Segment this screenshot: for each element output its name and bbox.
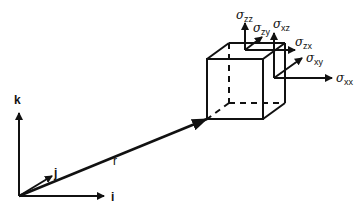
svg-text:zx: zx [303, 41, 313, 51]
sigma-xy-arrow [274, 58, 302, 78]
stress-diagram: k i j r σ z [0, 0, 364, 212]
i-label: i [111, 190, 114, 204]
r-label: r [113, 154, 117, 168]
stress-label-zx: σ zx [295, 35, 313, 51]
stress-label-xy: σ xy [306, 51, 324, 67]
stress-label-xz: σ xz [273, 17, 291, 33]
stress-label-zy: σ zy [253, 21, 271, 37]
svg-text:xz: xz [281, 23, 291, 33]
j-label: j [53, 166, 57, 180]
k-label: k [14, 93, 21, 107]
stress-label-xx: σ xx [336, 71, 354, 87]
svg-text:zy: zy [261, 27, 271, 37]
coordinate-axes [19, 113, 104, 196]
stress-label-zz: σ zz [236, 8, 254, 24]
svg-text:xx: xx [344, 77, 354, 87]
svg-text:xy: xy [314, 57, 324, 67]
